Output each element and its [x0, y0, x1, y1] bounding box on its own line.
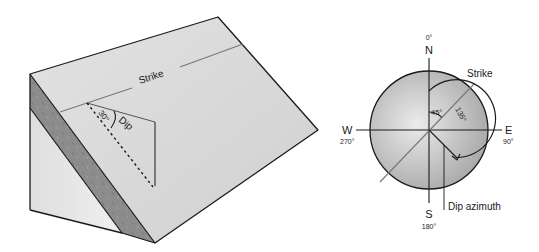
- geology-strike-dip-diagram: Strike 30° Dip 45° 135° Strike 0°: [0, 0, 539, 252]
- block-diagram: Strike 30° Dip: [30, 17, 318, 243]
- strike-angle-label: 45°: [431, 108, 442, 117]
- east-label: E: [505, 124, 512, 136]
- east-degrees: 90°: [503, 138, 514, 145]
- south-label: S: [425, 208, 432, 220]
- north-degrees: 0°: [426, 34, 433, 41]
- dip-azimuth-label: Dip azimuth: [448, 201, 501, 212]
- compass-rose: 45° 135° Strike 0° N E 90° S 180° W 270°…: [340, 34, 514, 230]
- south-degrees: 180°: [422, 223, 437, 230]
- compass-strike-label: Strike: [467, 68, 493, 79]
- north-label: N: [425, 44, 433, 56]
- west-label: W: [342, 124, 353, 136]
- west-degrees: 270°: [340, 138, 355, 145]
